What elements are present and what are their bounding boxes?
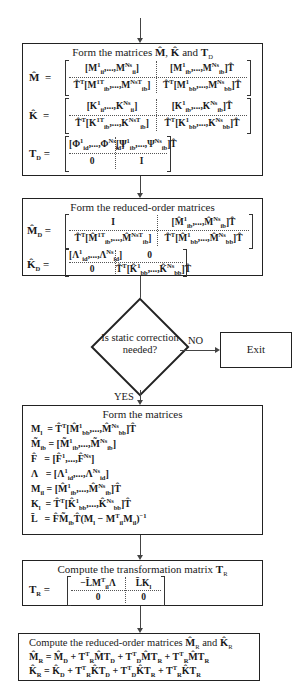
md-r2c1: T̂T[M̂1Tib,...,M̂NsTib] <box>69 233 157 244</box>
no-label: NO <box>188 335 203 346</box>
eq-ml: Ml = T̂T[M̂1bb,...,M̂Nsbb]T̂ <box>31 423 136 435</box>
bracket-right <box>247 60 251 96</box>
bracket-right <box>247 98 251 134</box>
eq-mib: M̃ib = [M̃1ib,...,M̃Nsib] <box>31 438 116 450</box>
box-reduced-order-matrices: Form the reduced-order matrices M̂D = I … <box>22 198 263 276</box>
kd-r2c2: T̂T[K̂1bb,...,K̂Nsbb]T̂ <box>116 264 183 275</box>
eq-kl: Kl = T̂T[K̂1bb,...,K̂Nsbb]T̂ <box>31 498 131 510</box>
kd-lhs: K̂D = <box>27 258 49 270</box>
tr-r1c1: −L̄MTilΛ <box>71 578 125 589</box>
m-hat-r2c1: T̂T[M1Tib,...,MNsTib] <box>69 80 155 91</box>
box2-title: Form the reduced-order matrices <box>23 201 262 214</box>
tr-r1c2: L̄Kl <box>126 578 161 589</box>
arrow-connector <box>140 176 141 194</box>
box4-title: Compute the transformation matrix TR <box>23 563 262 576</box>
box-transformation-matrix: Compute the transformation matrix TR TR … <box>22 560 263 606</box>
eq-kr: K̂R = K̂D + TTRK̂TD + TTDK̂TR + TTRK̂TR <box>29 665 201 677</box>
m-hat-r1c1: [M1ii,...,MNsii] <box>69 63 155 74</box>
bracket-right <box>249 214 253 249</box>
yes-label: YES <box>114 391 134 402</box>
kd-r1c2: 0 <box>116 250 183 261</box>
eq-lambda: Λ = [Λ1id,...,ΛNsid] <box>31 468 109 480</box>
arrow-no <box>180 350 216 351</box>
k-hat-r2c1: T̂T[K1Tib,...,KNsTib] <box>69 118 155 129</box>
eq-lbar: L̄ = F̂M̃ibT̂(Ml − MTilMil)−1 <box>31 513 147 525</box>
td-lhs: TD = <box>29 147 50 159</box>
k-hat-r1c2: [K1ib,...,KNsib]T̂ <box>157 101 247 112</box>
exit-box: Exit <box>220 332 292 368</box>
m-hat-lhs: M̂ = <box>29 71 51 83</box>
md-r1c1: I <box>69 217 157 228</box>
md-r2c2: T̂T[M̂1bb,...,M̂Nsbb]T̂ <box>158 233 249 244</box>
tr-r2c1: 0 <box>71 592 125 603</box>
box-reduced-order-result: Compute the reduced-order matrices M̂R a… <box>18 633 260 681</box>
matrix-divider <box>69 153 167 154</box>
matrix-divider <box>71 590 161 591</box>
k-hat-lhs: K̂ = <box>29 109 49 121</box>
exit-label: Exit <box>221 333 291 366</box>
k-hat-r1c1: [K1ii,...,KNsii] <box>69 101 155 112</box>
k-hat-r2c2: T̂T[K1bb,...,KNsbb]T̂ <box>157 118 247 129</box>
eq-f: F̂ = [F̂1,...,F̂Ns] <box>31 453 94 465</box>
td-r2c1: 0 <box>69 156 115 167</box>
arrow-in-top <box>140 18 141 40</box>
td-r2c2: I <box>116 156 167 167</box>
m-hat-r2c2: T̂T[M1bb,...,MNsbb]T̂ <box>157 80 247 91</box>
bracket-right <box>161 576 165 606</box>
box1-title: Form the matrices M̂, K̂ and TD <box>23 46 262 59</box>
td-r1c1: [Φ1id,...,ΦNsid] <box>69 139 115 150</box>
td-r1c2: [Ψ1ib,...,ΨNsib]T̂ <box>116 139 167 150</box>
box-form-matrices: Form the matrices M̂, K̂ and TD M̂ = [M1… <box>22 43 263 176</box>
md-r1c2: [M̂1ib,...,M̂Nsib]T̂ <box>158 217 249 228</box>
eq-mr: M̂R = M̂D + TTRM̂TD + TTDM̂TR + TTRM̂TR <box>29 651 209 663</box>
arrow-connector <box>140 535 141 556</box>
m-hat-r1c2: [M1ib,...,MNsib]T̂ <box>157 63 247 74</box>
kd-r1c1: [Λ1id,...,ΛNsid] <box>69 250 115 261</box>
tr-lhs: TR = <box>29 583 50 595</box>
box5-title: Compute the reduced-order matrices M̂R a… <box>29 637 232 649</box>
md-lhs: M̂D = <box>27 224 51 236</box>
box3-title: Form the matrices <box>23 408 262 421</box>
decision-text: Is static correction needed? <box>100 332 180 356</box>
arrow-connector <box>140 606 141 629</box>
tr-r2c2: 0 <box>126 592 161 603</box>
eq-mil: Mil = [M̂1ib,...,M̂Nsib]T̂ <box>31 483 121 495</box>
box-form-matrices-static: Form the matrices Ml = T̂T[M̂1bb,...,M̂N… <box>22 405 263 535</box>
kd-r2c1: 0 <box>69 264 115 275</box>
